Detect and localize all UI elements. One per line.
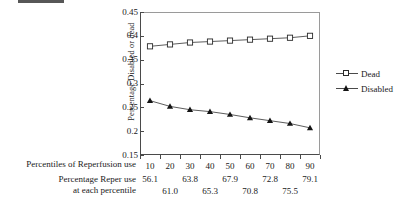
x-tick-mark xyxy=(260,155,261,159)
data-point-open-square xyxy=(147,44,152,49)
legend-label-dead: Dead xyxy=(361,69,380,79)
axis-caption-block: Percentiles of Reperfusion use Percentag… xyxy=(0,159,136,196)
x-tick-mark xyxy=(280,155,281,159)
y-tick-mark xyxy=(140,36,144,37)
x-axis-tick-labels: 102030405060708090 xyxy=(140,161,321,173)
y-tick-label: 0.35 xyxy=(112,55,138,64)
y-tick-mark xyxy=(140,12,144,13)
y-tick-mark xyxy=(140,155,144,156)
y-tick-mark xyxy=(140,131,144,132)
x-tick-mark xyxy=(220,155,221,159)
data-point-open-square xyxy=(267,36,272,41)
reper-value: 61.0 xyxy=(155,186,185,197)
reper-value: 65.3 xyxy=(195,186,225,197)
legend-swatch-dead xyxy=(336,68,358,79)
data-point-open-square xyxy=(207,39,212,44)
x-axis-caption: Percentiles of Reperfusion use xyxy=(0,159,136,170)
reper-value: 72.8 xyxy=(255,174,285,185)
reper-caption-line1: Percentage Reper use xyxy=(0,174,136,185)
x-tick-mark xyxy=(160,155,161,159)
y-tick-label: 0.4 xyxy=(112,31,138,40)
data-point-open-square xyxy=(307,33,312,38)
scan-artifact-bar xyxy=(18,0,64,3)
y-tick-mark xyxy=(140,107,144,108)
data-point-open-square xyxy=(167,42,172,47)
data-point-open-square xyxy=(247,37,252,42)
chart-legend: Dead Disabled xyxy=(336,66,410,96)
reper-value: 75.5 xyxy=(275,186,305,197)
x-tick-mark xyxy=(180,155,181,159)
x-tick-mark xyxy=(200,155,201,159)
legend-swatch-disabled xyxy=(336,83,358,94)
x-tick-label: 90 xyxy=(298,161,322,172)
y-tick-mark xyxy=(140,84,144,85)
x-tick-mark xyxy=(300,155,301,159)
reper-value-rows: 56.161.063.865.367.970.872.875.579.1 xyxy=(140,174,321,202)
x-tick-mark xyxy=(320,155,321,159)
y-tick-label: 0.3 xyxy=(112,79,138,88)
data-point-filled-triangle xyxy=(147,98,153,103)
data-point-open-square xyxy=(187,40,192,45)
reper-value: 67.9 xyxy=(215,174,245,185)
reper-caption-line2: at each percentile xyxy=(0,185,136,196)
reper-value: 70.8 xyxy=(235,186,265,197)
y-tick-label: 0.25 xyxy=(112,103,138,112)
data-point-open-square xyxy=(227,38,232,43)
y-axis-tick-labels: 0.450.40.350.30.250.20.15 xyxy=(112,12,138,155)
y-tick-label: 0.2 xyxy=(112,127,138,136)
plot-series-canvas xyxy=(140,12,320,155)
reper-value: 63.8 xyxy=(175,174,205,185)
legend-item-disabled[interactable]: Disabled xyxy=(336,81,410,96)
data-point-open-square xyxy=(287,35,292,40)
y-tick-mark xyxy=(140,60,144,61)
reper-value: 56.1 xyxy=(135,174,165,185)
filled-triangle-marker-icon xyxy=(343,85,349,91)
legend-item-dead[interactable]: Dead xyxy=(336,66,410,81)
open-square-marker-icon xyxy=(343,70,349,76)
reper-value: 79.1 xyxy=(295,174,325,185)
x-tick-mark xyxy=(240,155,241,159)
y-tick-label: 0.45 xyxy=(112,8,138,17)
legend-label-disabled: Disabled xyxy=(361,84,393,94)
